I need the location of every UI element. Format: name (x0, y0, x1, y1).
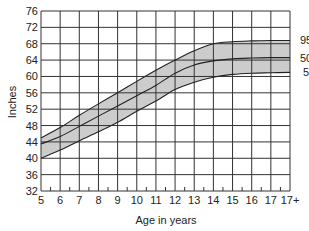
y-tick: 40 (26, 152, 38, 164)
x-tick: 10 (131, 194, 143, 206)
x-tick: 17 (265, 194, 277, 206)
y-tick: 60 (26, 70, 38, 82)
growth-chart: 323640444852566064687276 567891011121314… (0, 0, 309, 231)
series-label-p50: 50 (300, 52, 309, 64)
series-label-p95: 95 (300, 34, 309, 46)
x-axis-ticks: 56789101112131415161717+ (38, 194, 299, 206)
x-tick: 16 (246, 194, 258, 206)
y-tick: 48 (26, 120, 38, 132)
y-tick: 72 (26, 21, 38, 33)
series-labels: 95505 (300, 34, 309, 78)
x-tick: 7 (76, 194, 82, 206)
y-tick: 56 (26, 87, 38, 99)
grid (41, 11, 290, 191)
y-axis-label: Inches (6, 85, 18, 118)
x-tick: 9 (115, 194, 121, 206)
y-tick: 64 (26, 54, 38, 66)
x-tick: 5 (38, 194, 44, 206)
x-axis-label: Age in years (135, 214, 197, 226)
percentile-lines (41, 40, 290, 158)
x-tick: 14 (207, 194, 219, 206)
series-label-p5: 5 (303, 66, 309, 78)
x-tick: 12 (169, 194, 181, 206)
x-tick: 13 (188, 194, 200, 206)
x-tick: 8 (95, 194, 101, 206)
y-tick: 32 (26, 185, 38, 197)
y-tick: 36 (26, 169, 38, 181)
x-tick: 11 (150, 194, 161, 206)
y-tick: 76 (26, 5, 38, 17)
x-tick: 15 (226, 194, 238, 206)
y-axis-ticks: 323640444852566064687276 (26, 5, 38, 197)
x-tick: 17+ (281, 194, 300, 206)
x-tick: 6 (57, 194, 63, 206)
y-tick: 52 (26, 103, 38, 115)
y-tick: 44 (26, 136, 38, 148)
y-tick: 68 (26, 38, 38, 50)
